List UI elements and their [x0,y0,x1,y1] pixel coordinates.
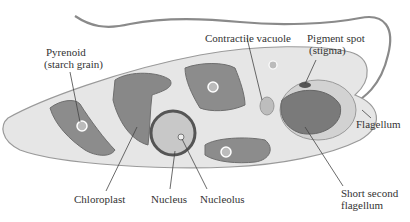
label-short-second-flagellum-line2: flagellum [341,199,398,211]
label-pyrenoid: Pyrenoid (starch grain) [44,46,103,70]
label-pigment-spot-line2: (stigma) [307,44,365,56]
pigment-spot [299,82,311,88]
label-short-second-flagellum: Short second flagellum [341,187,398,211]
chloroplast-4 [205,138,270,163]
label-short-second-flagellum-line1: Short second [341,187,398,199]
label-pigment-spot: Pigment spot (stigma) [307,32,365,56]
pyrenoid-3 [221,147,231,157]
pyrenoid-2 [208,82,218,92]
label-nucleus: Nucleus [151,193,187,205]
label-pyrenoid-line1: Pyrenoid [44,46,103,58]
euglena-diagram: Pyrenoid (starch grain) Contractile vacu… [0,0,410,222]
label-contractile-vacuole: Contractile vacuole [205,32,291,44]
nucleus [151,111,195,155]
label-pigment-spot-line1: Pigment spot [307,32,365,44]
label-chloroplast: Chloroplast [74,193,125,205]
pyrenoid-1 [77,121,87,131]
label-pyrenoid-line2: (starch grain) [44,58,103,70]
label-flagellum: Flagellum [356,118,401,130]
label-nucleolus: Nucleolus [200,193,245,205]
pyrenoid-4 [269,61,277,69]
nucleolus [178,134,184,140]
